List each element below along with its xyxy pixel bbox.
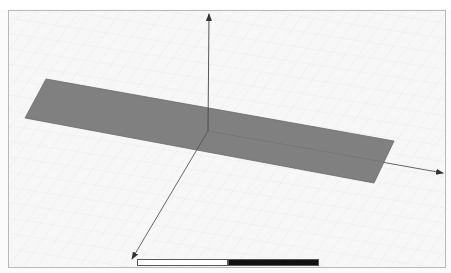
scale-bar-white-segment (137, 259, 228, 266)
scale-bar-black-segment (228, 259, 319, 266)
toolbar-strip (0, 0, 451, 9)
scale-bar (137, 259, 319, 266)
3d-viewport[interactable] (8, 10, 446, 268)
modeler-window (0, 0, 451, 273)
scene-canvas[interactable] (9, 11, 446, 268)
